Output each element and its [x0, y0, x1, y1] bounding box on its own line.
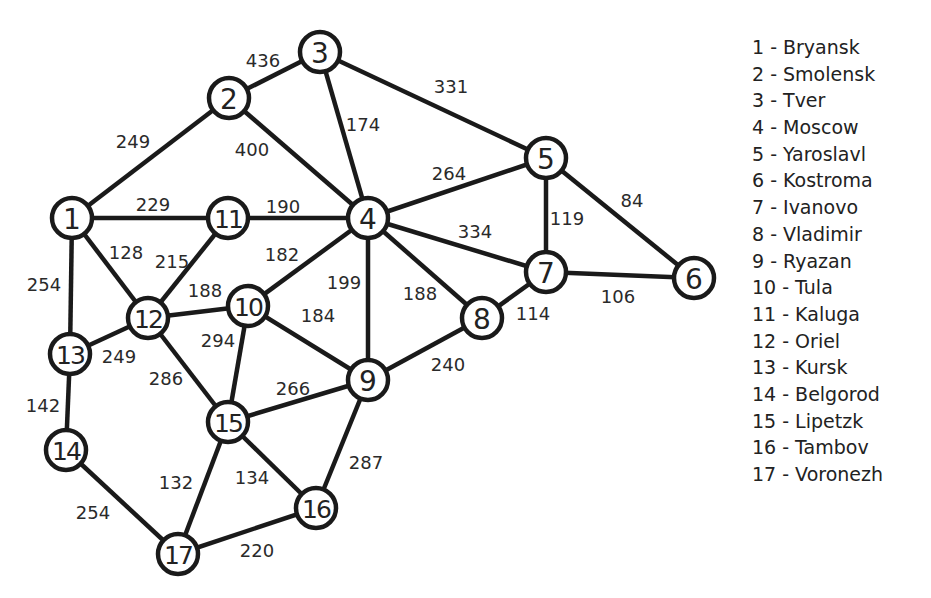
node-number-label: 4	[359, 203, 377, 236]
legend-item: 17 - Voronezh	[752, 461, 883, 488]
edge-weight-label: 182	[265, 244, 299, 265]
edge-weight-label: 188	[188, 280, 222, 301]
legend-item: 12 - Oriel	[752, 328, 883, 355]
node-number-label: 10	[234, 293, 263, 322]
node-15: 15	[208, 402, 248, 442]
node-16: 16	[296, 488, 336, 528]
edge-weight-label: 215	[155, 251, 189, 272]
node-5: 5	[526, 138, 566, 178]
node-number-label: 6	[685, 263, 703, 296]
legend-item: 15 - Lipetzk	[752, 408, 883, 435]
edge-weight-label: 287	[349, 452, 383, 473]
node-number-label: 16	[302, 495, 331, 524]
edge-weight-label: 220	[240, 540, 274, 561]
node-number-label: 5	[537, 143, 555, 176]
legend-item: 16 - Tambov	[752, 434, 883, 461]
legend-item: 11 - Kaluga	[752, 301, 883, 328]
node-17: 17	[158, 534, 198, 574]
edge-weight-label: 106	[601, 286, 635, 307]
node-number-label: 14	[52, 437, 81, 466]
node-6: 6	[674, 258, 714, 298]
legend-item: 10 - Tula	[752, 274, 883, 301]
node-3: 3	[300, 32, 340, 72]
edge-weight-label: 142	[26, 395, 60, 416]
node-12: 12	[128, 298, 168, 338]
legend-item: 2 - Smolensk	[752, 61, 883, 88]
legend-item: 1 - Bryansk	[752, 34, 883, 61]
edge-weight-label: 334	[458, 221, 492, 242]
edge-weight-label: 254	[76, 502, 110, 523]
edge-weight-label: 119	[550, 208, 584, 229]
edge-weight-label: 249	[102, 346, 136, 367]
node-13: 13	[50, 334, 90, 374]
edge-weight-label: 134	[235, 467, 269, 488]
legend-item: 4 - Moscow	[752, 114, 883, 141]
legend-item: 9 - Ryazan	[752, 248, 883, 275]
node-number-label: 7	[537, 257, 555, 290]
node-number-label: 3	[311, 37, 329, 70]
edge-weight-label: 286	[149, 368, 183, 389]
node-8: 8	[462, 298, 502, 338]
edge-weight-label: 266	[276, 378, 310, 399]
edge-weight-label: 240	[431, 354, 465, 375]
legend-item: 8 - Vladimir	[752, 221, 883, 248]
node-10: 10	[228, 286, 268, 326]
edge-weight-label: 264	[432, 163, 466, 184]
node-number-label: 15	[214, 409, 242, 438]
legend-item: 7 - Ivanovo	[752, 194, 883, 221]
node-number-label: 13	[56, 341, 84, 370]
edge-weight-label: 128	[109, 242, 143, 263]
edge-weight-label: 132	[159, 472, 193, 493]
edge-weight-label: 294	[201, 330, 235, 351]
city-legend: 1 - Bryansk2 - Smolensk3 - Tver4 - Mosco…	[752, 34, 883, 488]
legend-item: 6 - Kostroma	[752, 167, 883, 194]
node-number-label: 17	[164, 541, 192, 570]
edge-weight-label: 174	[346, 114, 380, 135]
edge-weight-label: 190	[266, 196, 300, 217]
edge-weight-label: 249	[116, 131, 150, 152]
edge-weight-label: 331	[434, 76, 468, 97]
legend-item: 14 - Belgorod	[752, 381, 883, 408]
edge-weight-label: 188	[403, 283, 437, 304]
edge-weight-label: 400	[235, 139, 269, 160]
node-9: 9	[348, 360, 388, 400]
edge-weights-layer: 2494364001743312291902641198433410618811…	[26, 50, 644, 561]
node-14: 14	[46, 430, 86, 470]
node-number-label: 1	[63, 203, 81, 236]
node-number-label: 9	[359, 365, 377, 398]
legend-item: 13 - Kursk	[752, 354, 883, 381]
node-7: 7	[526, 252, 566, 292]
legend-item: 5 - Yaroslavl	[752, 141, 883, 168]
edge-weight-label: 114	[516, 303, 550, 324]
node-number-label: 11	[214, 205, 242, 234]
edge-weight-label: 254	[27, 274, 61, 295]
edge-weight-label: 229	[136, 194, 170, 215]
node-1: 1	[52, 198, 92, 238]
node-number-label: 2	[220, 83, 238, 116]
node-number-label: 12	[134, 305, 162, 334]
legend-item: 3 - Tver	[752, 87, 883, 114]
edge-weight-label: 199	[327, 272, 361, 293]
node-number-label: 8	[473, 303, 491, 336]
node-4: 4	[348, 198, 388, 238]
edge-weight-label: 84	[621, 190, 644, 211]
city-graph: 2494364001743312291902641198433410618811…	[0, 0, 740, 598]
edge-3-4	[320, 52, 368, 218]
node-11: 11	[208, 198, 248, 238]
edge-weight-label: 184	[301, 305, 335, 326]
edge-weight-label: 436	[246, 50, 280, 71]
edge-3-5	[320, 52, 546, 158]
node-2: 2	[209, 78, 249, 118]
